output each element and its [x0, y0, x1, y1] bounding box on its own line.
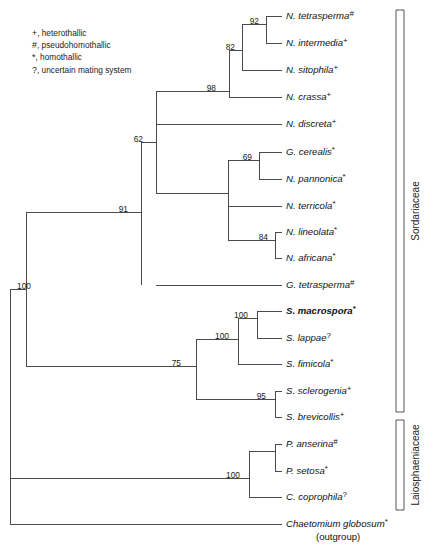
- support-value-sordaria-clade: 75: [172, 358, 182, 368]
- taxon-label-s_lappae: S. lappae?: [286, 331, 332, 343]
- legend-label: +, heterothallic: [32, 28, 87, 38]
- taxon-label-n_tetrasperma: N. tetrasperma#: [286, 9, 354, 21]
- taxon-label-p_setosa: P. setosa*: [286, 464, 328, 476]
- legend-item-0: +, heterothallic: [32, 28, 87, 38]
- taxon-label-n_terricola: N. terricola*: [286, 199, 336, 211]
- support-value-tetrasperma+intermedia: 92: [250, 16, 260, 26]
- taxon-sublabel-chaetomium: (outgroup): [316, 531, 360, 542]
- support-value-lineolata+africana: 84: [259, 232, 269, 242]
- legend-label: *, homothallic: [32, 52, 82, 62]
- taxon-label-n_lineolata: N. lineolata*: [286, 225, 337, 237]
- support-value-cerealis+pannonica: 69: [243, 152, 253, 162]
- taxon-label-s_sclerogenia: S. sclerogenia+: [286, 384, 352, 396]
- support-value-podospora-clade: 100: [226, 470, 240, 480]
- taxon-label-s_fimicola: S. fimicola*: [286, 357, 333, 369]
- support-value-macrospora+lappae+fimicola: 100: [215, 331, 229, 341]
- support-value-sordariaceae+laiosphaeniaceae: 100: [17, 281, 31, 291]
- taxon-label-n_discreta: N. discreta+: [286, 117, 337, 129]
- tree-canvas: +, heterothallic#, pseudohomothallic*, h…: [0, 0, 427, 549]
- taxon-label-n_crassa: N. crassa+: [286, 90, 332, 102]
- mating-system-legend: +, heterothallic#, pseudohomothallic*, h…: [32, 28, 132, 75]
- support-value-sclerogenia+brevicollis: 95: [257, 391, 267, 401]
- legend-label: ?, uncertain mating system: [32, 65, 132, 75]
- family-brackets: SordariaceaeLaiosphaeniaceae: [396, 10, 421, 510]
- taxon-label-n_intermedia: N. intermedia+: [286, 36, 348, 48]
- legend-label: #, pseudohomothallic: [32, 40, 111, 50]
- legend-item-1: #, pseudohomothallic: [32, 40, 111, 50]
- taxon-labels: N. tetrasperma#N. intermedia+N. sitophil…: [286, 9, 388, 542]
- family-label-1: Laiosphaeniaceae: [410, 424, 421, 506]
- family-label-0: Sordariaceae: [410, 181, 421, 241]
- taxon-label-p_anserina: P. anserina#: [286, 437, 338, 449]
- phylogenetic-tree-figure: +, heterothallic#, pseudohomothallic*, h…: [0, 0, 427, 549]
- support-value-sordariaceae: 91: [119, 204, 129, 214]
- support-value-tetrasperma+intermedia+sitophila: 82: [226, 42, 236, 52]
- taxon-label-s_macrospora: S. macrospora*: [286, 304, 357, 316]
- taxon-label-n_sitophila: N. sitophila+: [286, 63, 338, 75]
- family-bracket-1: [396, 420, 404, 510]
- family-bracket-0: [396, 10, 404, 412]
- taxon-label-chaetomium: Chaetomium globosum*: [286, 517, 388, 529]
- support-value-neurospora-crassa-group: 98: [207, 83, 217, 93]
- support-value-macrospora+lappae: 100: [234, 310, 248, 320]
- taxon-label-s_brevicollis: S. brevicollis+: [286, 410, 345, 422]
- taxon-label-n_africana: N. africana*: [286, 251, 336, 263]
- taxon-label-g_cerealis: G. cerealis*: [286, 145, 335, 157]
- taxon-label-n_pannonica: N. pannonica*: [286, 172, 346, 184]
- taxon-label-g_tetrasperma: G. tetrasperma#: [286, 278, 355, 290]
- bootstrap-support-labels: 928298626991841001007595100100: [17, 16, 268, 480]
- legend-item-3: ?, uncertain mating system: [32, 65, 132, 75]
- support-value-sordariaceae-core: 62: [134, 134, 144, 144]
- taxon-label-c_coprophila: C. coprophila?: [286, 490, 348, 502]
- legend-item-2: *, homothallic: [32, 52, 82, 62]
- tree-branches: [10, 16, 282, 524]
